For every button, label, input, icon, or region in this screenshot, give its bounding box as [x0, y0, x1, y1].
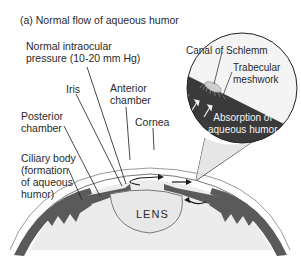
label-posterior-chamber: Posterior chamber [21, 110, 63, 134]
label-iris: Iris [66, 83, 80, 95]
label-lens: LENS [136, 208, 169, 220]
label-canal-of-schlemm: Canal of Schlemm [186, 45, 268, 57]
label-ciliary-body: Ciliary body (formation of aqueous humor… [21, 152, 76, 200]
figure-title: (a) Normal flow of aqueous humor [20, 14, 179, 26]
label-absorption: Absorption of aqueous humor [208, 112, 278, 136]
label-anterior-chamber: Anterior chamber [110, 82, 151, 106]
label-trabecular-meshwork: Trabecular meshwork [233, 62, 280, 86]
label-cornea: Cornea [135, 116, 169, 128]
aqueous-humor-diagram: (a) Normal flow of aqueous humor Normal … [0, 0, 301, 268]
label-pressure: Normal intraocular pressure (10-20 mm Hg… [26, 40, 140, 64]
